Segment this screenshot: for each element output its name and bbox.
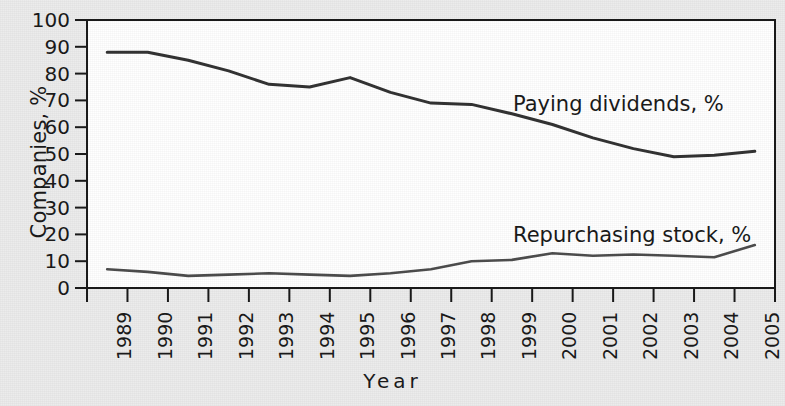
series-label-paying-dividends: Paying dividends, % <box>513 92 724 116</box>
series-label-repurchasing-stock: Repurchasing stock, % <box>513 223 751 247</box>
chart-figure: Companies, % 1009080706050403020100 1989… <box>0 0 785 406</box>
x-axis-ticks <box>87 288 775 302</box>
y-axis-ticks <box>75 20 87 288</box>
plot-area <box>0 0 785 406</box>
